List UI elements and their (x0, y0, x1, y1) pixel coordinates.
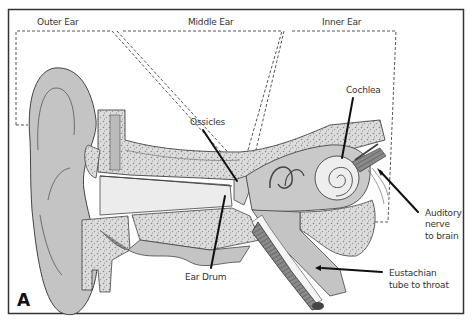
label-eustachian-2: tube to throat (389, 280, 449, 290)
label-auditory-nerve-1: Auditory (425, 208, 462, 218)
label-inner-ear: Inner Ear (322, 17, 361, 27)
label-eustachian-1: Eustachian (389, 268, 437, 278)
label-ear-drum: Ear Drum (185, 272, 226, 282)
label-auditory-nerve-3: to brain (425, 231, 458, 241)
label-cochlea: Cochlea (346, 85, 381, 95)
label-auditory-nerve-2: nerve (425, 219, 450, 229)
label-outer-ear: Outer Ear (37, 17, 79, 27)
panel-letter: A (17, 290, 30, 310)
label-ossicles: Ossicles (190, 117, 225, 127)
label-middle-ear: Middle Ear (188, 17, 234, 27)
